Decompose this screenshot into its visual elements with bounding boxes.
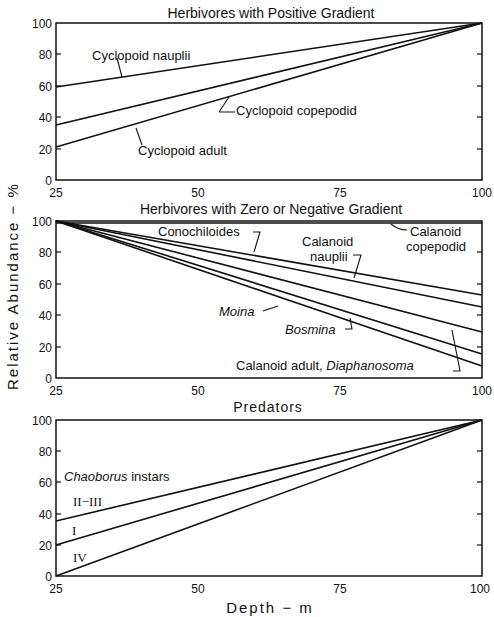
label-diaphanosoma: Diaphanosoma: [326, 358, 413, 373]
panel-title: Herbivores with Positive Gradient: [168, 5, 375, 21]
label-cyclopoid-adult: Cyclopoid adult: [138, 143, 227, 158]
label-instar-IV: IV: [73, 550, 87, 565]
label-calanoid-nauplii-1: Calanoid: [302, 234, 353, 249]
x-tick-label: 50: [191, 582, 205, 596]
y-tick-label: 80: [39, 445, 53, 459]
panel-predators: Predators 100 80 60 40 20 0 25 50 75 100…: [32, 399, 490, 596]
label-bosmina: Bosmina: [285, 322, 336, 337]
panel-positive-gradient: Herbivores with Positive Gradient 100 80…: [32, 5, 492, 200]
series-lines: [56, 23, 482, 147]
label-chaoborus: Chaoborus: [64, 469, 128, 484]
y-ticks: [56, 252, 482, 347]
x-tick-label: 50: [191, 186, 205, 200]
label-moina: Moina: [219, 304, 254, 319]
x-tick-label: 75: [333, 384, 347, 398]
y-tick-label: 80: [39, 48, 53, 62]
y-tick-label: 20: [39, 143, 53, 157]
y-axis-label: Relative Abundance − %: [4, 182, 21, 390]
label-calanoid-adult-text: Calanoid adult,: [236, 358, 326, 373]
label-cyclopoid-copepodid: Cyclopoid copepodid: [236, 103, 357, 118]
x-tick-label: 25: [49, 384, 63, 398]
y-tick-label: 40: [39, 309, 53, 323]
series-lines: [56, 420, 482, 576]
plot-frame: [56, 23, 482, 180]
x-tick-label: 50: [191, 384, 205, 398]
x-tick-label: 100: [470, 582, 490, 596]
y-tick-label: 60: [39, 80, 53, 94]
label-chaoborus-instars: Chaoborus instars: [64, 469, 170, 484]
label-instar-I: I: [72, 523, 76, 538]
y-tick-label: 60: [39, 278, 53, 292]
label-instar-II-III: II−III: [73, 494, 102, 509]
x-tick-label: 25: [49, 186, 63, 200]
y-tick-label: 60: [39, 476, 53, 490]
x-tick-label: 100: [472, 186, 492, 200]
panel-zero-negative-gradient: Herbivores with Zero or Negative Gradien…: [32, 201, 492, 398]
label-calanoid-copepodid-2: copepodid: [406, 239, 466, 254]
x-tick-label: 75: [333, 186, 347, 200]
y-tick-label: 40: [39, 111, 53, 125]
y-tick-label: 40: [39, 508, 53, 522]
label-instars: instars: [128, 469, 170, 484]
panel-title: Predators: [233, 399, 303, 415]
y-tick-label: 100: [32, 17, 52, 31]
panel-title: Herbivores with Zero or Negative Gradien…: [140, 201, 402, 217]
line-instar-IV: [56, 420, 482, 576]
label-calanoid-copepodid-1: Calanoid: [410, 224, 461, 239]
label-cyclopoid-nauplii: Cyclopoid nauplii: [92, 48, 190, 63]
label-calanoid-nauplii-2: nauplii: [310, 249, 348, 264]
line-cyclopoid-adult: [56, 23, 482, 147]
x-tick-label: 75: [333, 582, 347, 596]
y-tick-label: 80: [39, 246, 53, 260]
x-tick-label: 25: [49, 582, 63, 596]
label-conochiloides: Conochiloides: [158, 224, 240, 239]
x-axis-label: Depth − m: [226, 599, 314, 616]
x-tick-label: 100: [472, 384, 492, 398]
figure: Relative Abundance − % Herbivores with P…: [0, 0, 494, 617]
y-tick-label: 20: [39, 539, 53, 553]
y-tick-label: 20: [39, 341, 53, 355]
y-tick-label: 100: [32, 215, 52, 229]
label-calanoid-adult: Calanoid adult, Diaphanosoma: [236, 358, 414, 373]
y-tick-label: 100: [32, 414, 52, 428]
leader-lines: [117, 58, 235, 145]
